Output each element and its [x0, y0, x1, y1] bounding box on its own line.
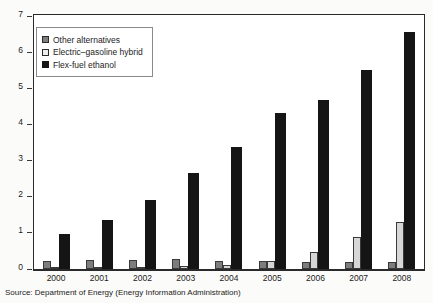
bar-ethanol-2006 — [318, 100, 329, 268]
bar-hybrid-2006 — [310, 252, 318, 268]
x-tick-label-2003: 2003 — [166, 273, 206, 287]
bar-other-2002 — [129, 260, 137, 269]
x-axis-baseline — [33, 269, 425, 271]
bar-chart: 01234567 2000200120022003200420052006200… — [0, 0, 433, 303]
x-tick-label-2000: 2000 — [36, 273, 76, 287]
legend-item-label: Flex-fuel ethanol — [53, 60, 116, 70]
bar-hybrid-2005 — [267, 261, 275, 268]
bar-other-2001 — [86, 260, 94, 269]
bar-other-2003 — [172, 259, 180, 268]
legend-swatch-hybrid-icon — [42, 49, 49, 56]
y-tick-label: 7 — [18, 10, 23, 19]
legend-item-hybrid: Electric–gasoline hybrid — [42, 47, 143, 57]
bar-ethanol-2008 — [404, 32, 415, 269]
bar-other-2005 — [259, 261, 267, 269]
legend-item-label: Other alternatives — [53, 35, 120, 45]
bar-group-2006 — [302, 16, 329, 269]
y-tick-label: 6 — [18, 46, 23, 55]
bar-other-2000 — [43, 261, 51, 269]
x-tick-label-2008: 2008 — [382, 273, 422, 287]
bar-ethanol-2002 — [145, 200, 156, 269]
y-tick-mark — [27, 232, 32, 233]
bar-ethanol-2001 — [102, 220, 113, 269]
y-tick-label: 2 — [18, 190, 23, 199]
bar-ethanol-2004 — [231, 147, 242, 268]
bar-other-2007 — [345, 262, 353, 269]
y-axis: 01234567 — [0, 0, 33, 303]
bar-group-2005 — [259, 16, 286, 269]
chart-legend: Other alternativesElectric–gasoline hybr… — [36, 27, 153, 77]
x-tick-label-2006: 2006 — [295, 273, 335, 287]
y-tick-mark — [27, 196, 32, 197]
bar-group-2004 — [215, 16, 242, 269]
legend-item-label: Electric–gasoline hybrid — [53, 47, 143, 57]
y-tick-label: 1 — [18, 226, 23, 235]
source-note: Source: Department of Energy (Energy Inf… — [5, 288, 241, 298]
x-axis-tick-labels: 200020012002200320042005200620072008 — [35, 273, 424, 287]
x-tick-label-2005: 2005 — [252, 273, 292, 287]
legend-swatch-ethanol-icon — [42, 61, 49, 68]
y-tick-label: 4 — [18, 118, 23, 127]
y-tick-mark — [27, 124, 32, 125]
y-tick-mark — [27, 88, 32, 89]
bar-ethanol-2000 — [59, 234, 70, 268]
y-tick-mark — [27, 16, 32, 17]
bar-other-2006 — [302, 262, 310, 269]
y-tick-mark — [27, 52, 32, 53]
y-tick-mark — [27, 269, 32, 270]
x-tick-label-2007: 2007 — [339, 273, 379, 287]
x-tick-label-2001: 2001 — [79, 273, 119, 287]
y-tick-label: 3 — [18, 154, 23, 163]
bar-ethanol-2003 — [188, 173, 199, 269]
legend-item-other: Other alternatives — [42, 35, 143, 45]
bar-group-2003 — [172, 16, 199, 269]
x-tick-label-2004: 2004 — [209, 273, 249, 287]
bar-other-2008 — [388, 262, 396, 268]
x-tick-label-2002: 2002 — [123, 273, 163, 287]
bar-hybrid-2007 — [353, 237, 361, 268]
legend-item-ethanol: Flex-fuel ethanol — [42, 60, 143, 70]
bar-group-2007 — [345, 16, 372, 269]
bar-ethanol-2005 — [275, 113, 286, 268]
bar-ethanol-2007 — [361, 70, 372, 269]
bar-hybrid-2008 — [396, 222, 404, 268]
bar-group-2008 — [388, 16, 415, 269]
bar-other-2004 — [215, 261, 223, 269]
bar-hybrid-2004 — [223, 265, 231, 269]
y-tick-label: 0 — [18, 263, 23, 272]
legend-swatch-other-icon — [42, 36, 49, 43]
y-tick-mark — [27, 160, 32, 161]
y-tick-label: 5 — [18, 82, 23, 91]
